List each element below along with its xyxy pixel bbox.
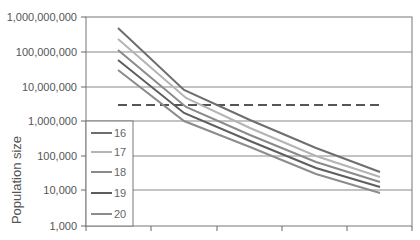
legend-label: 18 xyxy=(114,166,126,178)
y-tick-label: 100,000 xyxy=(37,150,77,162)
y-tick-label: 10,000,000 xyxy=(22,81,77,93)
population-chart: 1,000,000,000 100,000,000 10,000,000 1,0… xyxy=(0,0,420,240)
x-ticks xyxy=(86,226,412,231)
legend: 16 17 18 19 20 xyxy=(86,121,133,226)
y-tick-label: 1,000,000,000 xyxy=(7,11,77,23)
y-tick-label: 10,000 xyxy=(43,184,77,196)
y-ticks xyxy=(81,17,86,226)
y-tick-label: 1,000,000 xyxy=(28,115,77,127)
legend-label: 17 xyxy=(114,146,126,158)
y-tick-label: 1,000 xyxy=(49,220,77,232)
y-tick-label: 100,000,000 xyxy=(16,46,77,58)
legend-label: 16 xyxy=(114,127,126,139)
legend-label: 19 xyxy=(114,187,126,199)
y-axis-title: Population size xyxy=(9,136,24,224)
legend-label: 20 xyxy=(114,208,126,220)
